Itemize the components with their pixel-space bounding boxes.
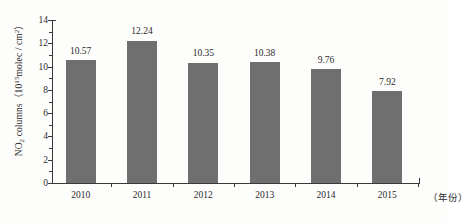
y-axis-tick-label: 8 — [43, 85, 48, 95]
bar — [127, 41, 157, 184]
y-axis-title-base: 10 — [14, 84, 24, 94]
x-axis-title: （年份） — [428, 190, 466, 204]
y-axis-minor-tick — [49, 171, 52, 172]
bar — [372, 91, 402, 183]
y-axis-title-word: columns — [14, 103, 24, 138]
y-axis-tick — [48, 160, 52, 161]
y-axis-tick-label: 0 — [43, 178, 48, 188]
x-axis-line — [52, 183, 420, 184]
y-axis-tick — [48, 90, 52, 91]
y-axis-title: NO2 columns（1015molec / cm2） — [10, 0, 24, 188]
y-axis-title-close-paren: ） — [14, 20, 24, 30]
y-axis-minor-tick — [49, 125, 52, 126]
y-axis-minor-tick — [49, 148, 52, 149]
x-axis-tick-label: 2013 — [255, 190, 274, 200]
y-axis-tick — [48, 113, 52, 114]
bar — [66, 60, 96, 183]
x-axis-tick-label: 2015 — [378, 190, 397, 200]
bar — [311, 69, 341, 183]
plot-area: 02468101214 10.5712.2410.3510.389.767.92… — [52, 20, 420, 183]
x-axis-tick-label: 2010 — [71, 190, 90, 200]
y-axis-tick — [48, 183, 52, 184]
y-axis-minor-tick — [49, 32, 52, 33]
y-axis-minor-tick — [49, 78, 52, 79]
x-axis-tick — [234, 183, 235, 187]
y-axis-tick-label: 4 — [43, 131, 48, 141]
y-axis-tick — [48, 20, 52, 21]
x-axis-tick — [111, 183, 112, 187]
y-axis-title-species: NO — [14, 142, 24, 156]
y-axis-title-open-paren: （ — [14, 93, 24, 103]
y-axis-tick-label: 6 — [43, 108, 48, 118]
x-axis-tick-label: 2012 — [194, 190, 213, 200]
x-axis-end-tick — [419, 178, 420, 183]
x-axis-tick-label: 2011 — [133, 190, 152, 200]
x-axis-tick — [295, 183, 296, 187]
bar-value-label: 10.57 — [70, 46, 91, 56]
bar-value-label: 12.24 — [131, 26, 152, 36]
y-axis-tick-label: 10 — [39, 62, 49, 72]
x-axis-tick — [418, 183, 419, 187]
y-axis-title-exponent: 15 — [13, 77, 21, 84]
x-axis-tick — [357, 183, 358, 187]
bar-value-label: 10.38 — [254, 48, 275, 58]
y-axis-minor-tick — [49, 102, 52, 103]
y-axis-line — [52, 20, 53, 183]
y-axis-title-species-subscript: 2 — [18, 139, 26, 143]
bar-value-label: 7.92 — [379, 77, 396, 87]
x-axis-tick-label: 2014 — [317, 190, 336, 200]
y-axis-tick — [48, 67, 52, 68]
y-axis-title-unit-exponent: 2 — [13, 30, 21, 34]
x-axis-tick — [173, 183, 174, 187]
bar-value-label: 9.76 — [318, 55, 335, 65]
y-axis-minor-tick — [49, 55, 52, 56]
y-axis-tick — [48, 136, 52, 137]
bar — [250, 62, 280, 183]
y-axis-tick-label: 12 — [39, 38, 49, 48]
y-axis-tick-label: 14 — [39, 15, 49, 25]
y-axis-tick — [48, 43, 52, 44]
y-axis-tick-label: 2 — [43, 155, 48, 165]
y-axis-title-unit: molec / cm — [14, 33, 24, 76]
bar-value-label: 10.35 — [193, 48, 214, 58]
y-axis-top-cap — [52, 20, 56, 21]
bar — [188, 63, 218, 184]
